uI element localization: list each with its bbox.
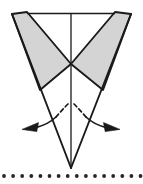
guide-dot	[93, 174, 97, 178]
guide-dot	[102, 174, 106, 178]
guide-dot	[39, 174, 43, 178]
guide-dot	[20, 174, 24, 178]
origami-fold-diagram	[0, 0, 143, 184]
guide-dot	[2, 174, 6, 178]
guide-dot	[75, 174, 79, 178]
fold-diagram-canvas	[0, 0, 143, 184]
guide-dot	[120, 174, 124, 178]
guide-dot	[57, 174, 61, 178]
guide-dot	[11, 174, 15, 178]
guide-dot	[130, 174, 134, 178]
guide-dot	[48, 174, 52, 178]
guide-dot	[84, 174, 88, 178]
guide-dot	[111, 174, 115, 178]
guide-dot	[29, 174, 33, 178]
guide-dot	[66, 174, 70, 178]
guide-dot	[139, 174, 143, 178]
